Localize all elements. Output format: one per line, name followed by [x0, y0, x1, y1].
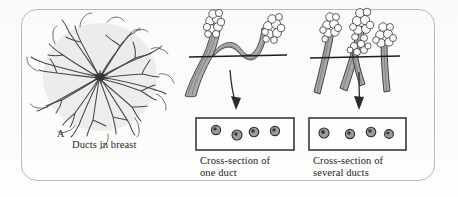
panel-a-letter: A: [57, 128, 64, 139]
panel-middle-caption: Cross-section of one duct: [200, 155, 270, 178]
cross-section-box-several-ducts: [309, 118, 406, 150]
lobule-icon-4: [373, 23, 397, 47]
figure-root: A Ducts in breast Cross-section of one d…: [0, 0, 458, 197]
panel-a-caption: Ducts in breast: [72, 139, 137, 151]
panel-right-caption: Cross-section of several ducts: [313, 155, 383, 178]
several-ducts-icon: [310, 8, 400, 94]
lobule-icon-2: [350, 8, 374, 41]
